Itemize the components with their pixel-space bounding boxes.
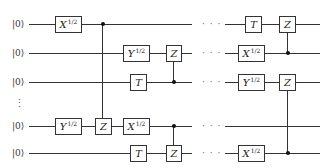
cz-line-q3-q4: [173, 126, 174, 145]
ket-label-q3: |0⟩: [12, 121, 24, 131]
cz-line-q4-q2: [287, 90, 288, 153]
control-dot-q3: [172, 124, 176, 128]
gate-power: 1/2: [68, 18, 78, 25]
cz-line-q0-q3: [102, 24, 103, 118]
quantum-circuit-diagram: |0⟩ · · · |0⟩ · · · |0⟩ · · · ⋮ |0⟩ · · …: [0, 0, 329, 168]
gate-symbol: X: [128, 121, 135, 132]
gate-power: 1/2: [67, 120, 77, 127]
gate-power: 1/2: [251, 147, 261, 154]
gate-power: 1/2: [135, 47, 145, 54]
gate-symbol: Y: [60, 121, 67, 132]
gate-symbol: T: [250, 19, 257, 30]
gate-symbol: Y: [128, 48, 135, 59]
gate-symbol: Z: [171, 48, 178, 59]
control-dot-q0: [101, 22, 105, 26]
gate-symbol: T: [135, 148, 142, 159]
ket-label-q2: |0⟩: [12, 77, 24, 87]
gate-symbol: X: [60, 19, 67, 30]
gate-y-sqrt-q1: Y1/2: [123, 45, 150, 62]
gate-symbol: Z: [284, 19, 291, 30]
vertical-ellipsis: ⋮: [14, 98, 20, 109]
gate-x-sqrt-q4: X1/2: [238, 145, 265, 162]
ket-label-q0: |0⟩: [12, 19, 24, 29]
gate-t-q4: T: [130, 145, 147, 162]
gate-symbol: T: [135, 77, 142, 88]
gate-power: 1/2: [250, 76, 260, 83]
gate-t-q2: T: [130, 74, 147, 91]
control-dot-q2: [172, 80, 176, 84]
ellipsis-q4: · · ·: [202, 149, 221, 157]
ellipsis-q3: · · ·: [202, 122, 221, 130]
gate-symbol: Z: [284, 77, 291, 88]
gate-symbol: Y: [243, 77, 250, 88]
ket-label-q4: |0⟩: [12, 148, 24, 158]
gate-z-q2: Z: [279, 74, 296, 91]
gate-t-q0: T: [245, 16, 262, 33]
wire-q0-right: [225, 24, 320, 25]
gate-z-q1: Z: [166, 45, 182, 62]
gate-y-sqrt-q2: Y1/2: [238, 74, 265, 91]
wire-q2-left: [29, 82, 192, 83]
gate-power: 1/2: [251, 47, 261, 54]
gate-symbol: X: [243, 48, 250, 59]
gate-z-q4: Z: [166, 145, 182, 162]
gate-symbol: X: [243, 148, 250, 159]
gate-symbol: Z: [171, 148, 178, 159]
control-dot-q1: [286, 51, 290, 55]
ellipsis-q0: · · ·: [202, 20, 221, 28]
gate-symbol: Z: [100, 121, 107, 132]
gate-x-sqrt-q3: X1/2: [123, 118, 150, 135]
gate-z-q3: Z: [95, 118, 112, 135]
ellipsis-q2: · · ·: [202, 78, 221, 86]
control-dot-q4: [286, 151, 290, 155]
ket-label-q1: |0⟩: [12, 48, 24, 58]
gate-x-sqrt-q1: X1/2: [238, 45, 265, 62]
ellipsis-q1: · · ·: [202, 49, 221, 57]
gate-power: 1/2: [136, 120, 146, 127]
wire-q0-left: [29, 24, 192, 25]
gate-x-sqrt-q0: X1/2: [55, 16, 82, 33]
gate-y-sqrt-q3: Y1/2: [55, 118, 82, 135]
wire-q3-right: [225, 126, 320, 127]
cz-line-q2-q1: [173, 61, 174, 82]
cz-line-q1-q0: [287, 32, 288, 53]
gate-z-q0: Z: [279, 16, 296, 33]
